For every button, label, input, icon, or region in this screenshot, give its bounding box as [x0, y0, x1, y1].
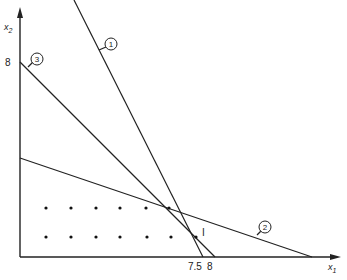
label-3: 3: [28, 53, 43, 67]
point: [194, 235, 197, 238]
point: [144, 206, 147, 209]
point: [69, 235, 72, 238]
point: [118, 206, 121, 209]
axes: [17, 7, 341, 260]
point: [167, 206, 170, 209]
integer-points: [44, 206, 197, 238]
label-2: 2: [257, 221, 271, 235]
point: [94, 235, 97, 238]
constraint-line-3: [20, 62, 215, 257]
x-axis-arrow-icon: [330, 254, 341, 260]
point: [69, 206, 72, 209]
x-axis-label: x1: [327, 262, 337, 274]
svg-text:3: 3: [35, 55, 40, 64]
point: [145, 235, 148, 238]
point-i-label: I: [202, 227, 205, 238]
lp-diagram: x2 x1 8 7.5 8 1 2 3 I: [0, 0, 347, 280]
label-1: 1: [99, 38, 117, 50]
point: [44, 235, 47, 238]
point: [169, 235, 172, 238]
svg-text:2: 2: [263, 223, 268, 232]
point: [44, 206, 47, 209]
x-tick-8: 8: [207, 261, 213, 272]
svg-text:1: 1: [109, 40, 114, 49]
y-axis-label: x2: [3, 22, 13, 34]
y-tick-8: 8: [5, 57, 11, 68]
point: [94, 206, 97, 209]
y-axis-arrow-icon: [17, 7, 23, 18]
constraint-line-1: [74, 0, 203, 257]
x-tick-7-5: 7.5: [188, 261, 202, 272]
point: [118, 235, 121, 238]
